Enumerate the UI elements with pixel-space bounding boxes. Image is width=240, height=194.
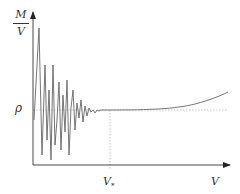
x-axis-label: V [211,175,219,188]
y-axis-label-numerator: M [15,8,26,21]
y-axis-label: M V [13,9,29,38]
rising-curve [110,92,228,110]
rho-tick-label: ρ [15,101,22,115]
vstar-sub: * [111,182,115,190]
oscillating-curve [34,28,110,160]
vstar-tick-label: V* [103,175,114,190]
y-axis-label-denominator: V [17,25,25,38]
vstar-main: V [103,175,111,188]
chart-canvas [0,0,240,194]
fraction-bar [13,23,29,24]
